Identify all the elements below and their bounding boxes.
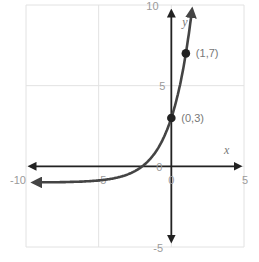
tick-labels: -10-505-50510 [10, 0, 248, 254]
exponential-curve [36, 12, 192, 182]
data-point [167, 114, 176, 123]
x-tick-label: 0 [168, 174, 174, 186]
x-tick-label: -10 [10, 174, 26, 186]
grid [26, 5, 244, 247]
y-tick-label: 5 [159, 80, 165, 92]
point-label: (0,3) [181, 112, 204, 124]
y-tick-label: 10 [146, 0, 158, 12]
point-label: (1,7) [196, 47, 219, 59]
y-axis-label: y [181, 15, 188, 29]
curve [36, 12, 192, 182]
x-axis-label: x [223, 143, 230, 157]
y-tick-label: -5 [153, 242, 163, 254]
x-tick-label: 5 [242, 174, 248, 186]
y-tick-label: 0 [156, 161, 162, 173]
exponential-graph: xy -10-505-50510 (0,3)(1,7) [0, 0, 259, 262]
data-point [182, 49, 191, 58]
